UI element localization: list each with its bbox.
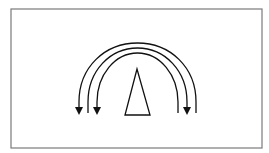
diagram-canvas xyxy=(0,0,269,153)
